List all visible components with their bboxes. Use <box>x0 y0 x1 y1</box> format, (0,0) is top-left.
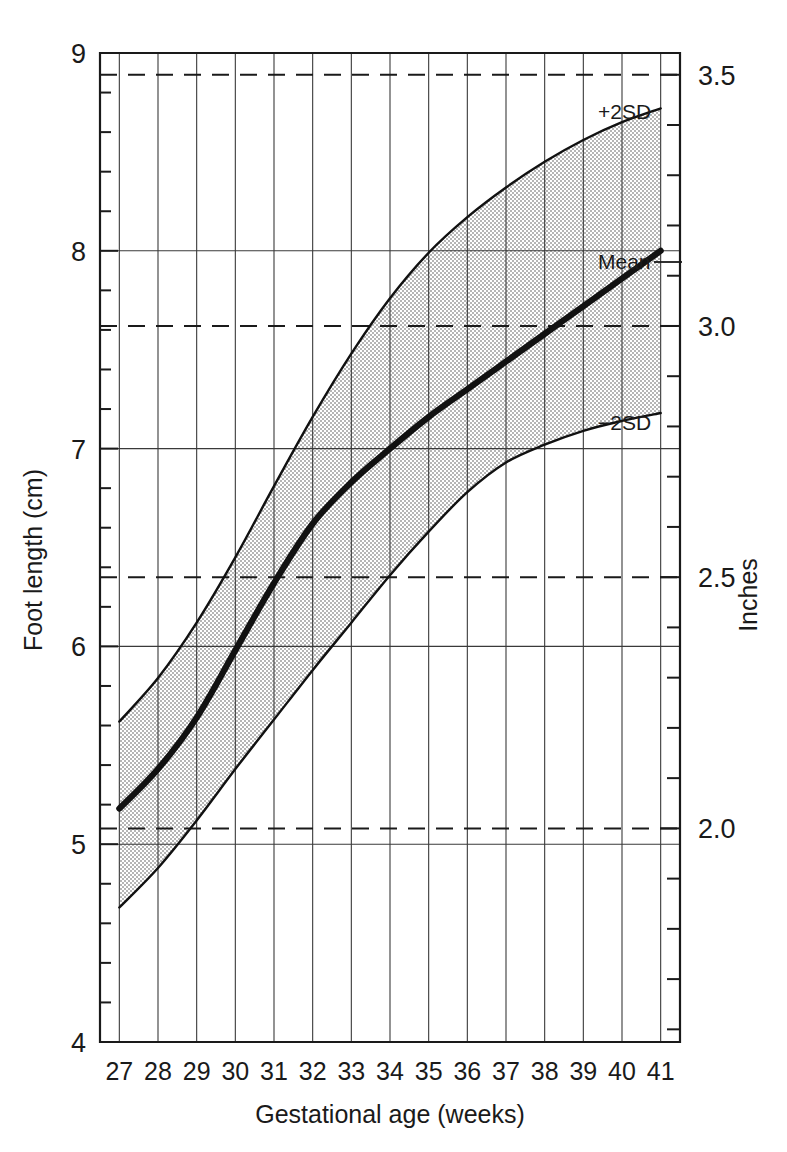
series-label-mean: Mean <box>598 250 651 273</box>
series-label-plus-2sd: +2SD <box>598 100 651 123</box>
y-tick-label-6: 6 <box>71 632 86 662</box>
x-tick-label-38: 38 <box>531 1057 559 1085</box>
y-tick-label-8: 8 <box>71 237 86 267</box>
y-tick-label-9: 9 <box>71 39 86 69</box>
x-tick-label-35: 35 <box>415 1057 443 1085</box>
y-tick-label-5: 5 <box>71 830 86 860</box>
x-tick-label-30: 30 <box>221 1057 249 1085</box>
x-tick-label-27: 27 <box>105 1057 133 1085</box>
x-tick-label-40: 40 <box>608 1057 636 1085</box>
x-axis-tick-labels: 272829303132333435363738394041 <box>105 1057 674 1085</box>
x-tick-label-34: 34 <box>376 1057 404 1085</box>
y2-tick-label-3.5: 3.5 <box>698 61 736 91</box>
y2-axis-title: Inches <box>734 558 762 632</box>
x-tick-label-29: 29 <box>183 1057 211 1085</box>
y2-tick-label-3.0: 3.0 <box>698 312 736 342</box>
x-tick-label-28: 28 <box>144 1057 172 1085</box>
x-tick-label-41: 41 <box>647 1057 675 1085</box>
x-tick-label-39: 39 <box>569 1057 597 1085</box>
y-tick-label-4: 4 <box>71 1028 86 1058</box>
y-tick-label-7: 7 <box>71 435 86 465</box>
foot-length-growth-chart: 987654 3.53.02.52.0 27282930313233343536… <box>0 0 787 1152</box>
chart-canvas: 987654 3.53.02.52.0 27282930313233343536… <box>0 0 787 1152</box>
y2-tick-label-2.5: 2.5 <box>698 563 736 593</box>
x-tick-label-32: 32 <box>299 1057 327 1085</box>
x-axis-title: Gestational age (weeks) <box>255 1100 525 1128</box>
x-tick-label-36: 36 <box>453 1057 481 1085</box>
series-label-minus-2sd: −2SD <box>598 411 651 434</box>
y-axis-title: Foot length (cm) <box>19 469 47 651</box>
x-tick-label-33: 33 <box>337 1057 365 1085</box>
x-tick-label-31: 31 <box>260 1057 288 1085</box>
x-tick-label-37: 37 <box>492 1057 520 1085</box>
y2-tick-label-2.0: 2.0 <box>698 814 736 844</box>
